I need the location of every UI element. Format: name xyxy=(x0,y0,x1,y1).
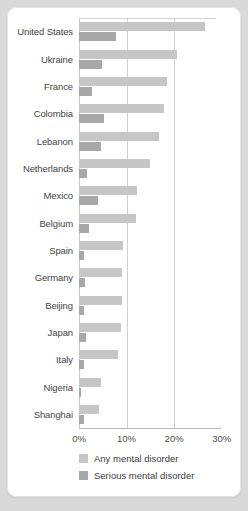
bar-any xyxy=(79,268,122,277)
legend-label: Serious mental disorder xyxy=(94,470,194,481)
bar-serious xyxy=(79,60,102,69)
legend-item: Any mental disorder xyxy=(79,451,239,466)
category-label: United States xyxy=(7,26,73,37)
legend-swatch-icon xyxy=(79,471,88,480)
bar-group xyxy=(79,132,216,151)
bar-group xyxy=(79,323,216,342)
bar-any xyxy=(79,296,122,305)
x-tick-label-30pct: 30% xyxy=(205,433,239,444)
category-label: Belgium xyxy=(7,218,73,229)
bar-serious xyxy=(79,333,86,342)
bar-group xyxy=(79,50,216,69)
category-label: Colombia xyxy=(7,108,73,119)
bar-serious xyxy=(79,114,104,123)
category-label: Germany xyxy=(7,272,73,283)
bar-any xyxy=(79,378,101,387)
bar-any xyxy=(79,186,137,195)
bar-any xyxy=(79,22,205,31)
bar-group xyxy=(79,104,216,123)
bar-serious xyxy=(79,388,81,397)
bar-serious xyxy=(79,306,84,315)
category-label: Beijing xyxy=(7,300,73,311)
category-label: Ukraine xyxy=(7,54,73,65)
bar-serious xyxy=(79,278,85,287)
bar-any xyxy=(79,132,159,141)
bar-any xyxy=(79,50,177,59)
bar-any xyxy=(79,405,99,414)
bar-serious xyxy=(79,87,92,96)
bar-group xyxy=(79,214,216,233)
chart-card: United StatesUkraineFranceColombiaLebano… xyxy=(7,7,241,497)
category-label: Mexico xyxy=(7,190,73,201)
plot-area xyxy=(79,18,216,428)
bar-group xyxy=(79,405,216,424)
chart-legend: Any mental disorderSerious mental disord… xyxy=(79,451,239,485)
x-tick-label-20pct: 20% xyxy=(157,433,191,444)
bar-serious xyxy=(79,251,84,260)
legend-swatch-icon xyxy=(79,454,88,463)
bar-group xyxy=(79,159,216,178)
bar-any xyxy=(79,77,167,86)
bar-any xyxy=(79,323,121,332)
bar-group xyxy=(79,22,216,41)
bar-any xyxy=(79,350,118,359)
bar-group xyxy=(79,350,216,369)
bar-serious xyxy=(79,415,84,424)
bar-serious xyxy=(79,196,98,205)
bar-chart: United StatesUkraineFranceColombiaLebano… xyxy=(8,8,241,497)
bar-any xyxy=(79,159,150,168)
bar-group xyxy=(79,378,216,397)
x-tick-label-0pct: 0% xyxy=(62,433,96,444)
bar-serious xyxy=(79,32,116,41)
category-label: Spain xyxy=(7,245,73,256)
x-axis-line xyxy=(79,428,221,429)
bar-group xyxy=(79,268,216,287)
bar-group xyxy=(79,77,216,96)
category-label: Shanghai xyxy=(7,409,73,420)
legend-label: Any mental disorder xyxy=(94,453,178,464)
legend-item: Serious mental disorder xyxy=(79,468,239,483)
bar-group xyxy=(79,241,216,260)
category-label: Italy xyxy=(7,354,73,365)
category-label: Netherlands xyxy=(7,163,73,174)
bar-group xyxy=(79,186,216,205)
bar-any xyxy=(79,214,136,223)
bar-serious xyxy=(79,360,84,369)
bar-serious xyxy=(79,169,87,178)
category-label: France xyxy=(7,81,73,92)
bar-serious xyxy=(79,142,101,151)
bar-serious xyxy=(79,224,89,233)
bar-any xyxy=(79,241,123,250)
category-label: Japan xyxy=(7,327,73,338)
category-label: Lebanon xyxy=(7,136,73,147)
bar-group xyxy=(79,296,216,315)
x-tick-label-10pct: 10% xyxy=(110,433,144,444)
bar-any xyxy=(79,104,164,113)
category-label: Nigeria xyxy=(7,382,73,393)
